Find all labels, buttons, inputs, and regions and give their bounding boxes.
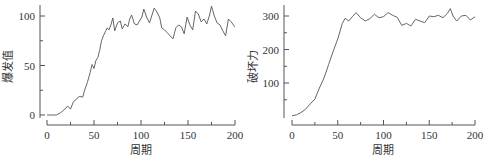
chart-figure: 050100150200050100 周期 爆发值 05010015020010… bbox=[0, 0, 488, 158]
x-tick-label: 150 bbox=[180, 129, 197, 141]
x-tick-label: 0 bbox=[44, 129, 50, 141]
x-tick-label: 100 bbox=[133, 129, 150, 141]
right-series-line bbox=[292, 9, 475, 116]
y-tick-label: 0 bbox=[30, 109, 36, 121]
x-tick-label: 100 bbox=[375, 129, 392, 141]
left-chart-burst-value: 050100150200050100 周期 爆发值 bbox=[1, 5, 244, 156]
x-tick-label: 0 bbox=[289, 129, 295, 141]
left-xlabel: 周期 bbox=[130, 144, 152, 156]
y-tick-label: 300 bbox=[263, 10, 280, 22]
x-tick-label: 200 bbox=[467, 129, 484, 141]
y-tick-label: 50 bbox=[24, 60, 36, 72]
y-tick-label: 100 bbox=[263, 77, 280, 89]
x-tick-label: 50 bbox=[89, 129, 101, 141]
y-tick-label: 100 bbox=[19, 10, 36, 22]
right-ylabel: 破坏力 bbox=[246, 50, 259, 83]
y-tick-label: 200 bbox=[263, 44, 280, 56]
right-chart-destructive-power: 050100150200100200300 周期 破坏力 bbox=[246, 5, 484, 156]
left-ticks: 050100150200050100 bbox=[19, 10, 244, 141]
left-ylabel: 爆发值 bbox=[1, 50, 14, 83]
left-series-line bbox=[47, 6, 235, 115]
right-ticks: 050100150200100200300 bbox=[263, 10, 484, 141]
x-tick-label: 200 bbox=[227, 129, 244, 141]
x-tick-label: 150 bbox=[421, 129, 438, 141]
x-tick-label: 50 bbox=[332, 129, 344, 141]
right-xlabel: 周期 bbox=[372, 144, 394, 156]
